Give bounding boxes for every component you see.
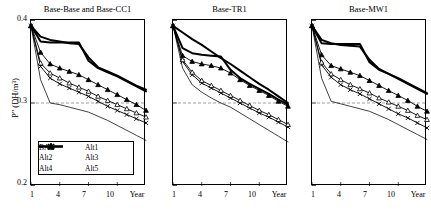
- x-axis-label: Year: [266, 190, 292, 199]
- panel-title: Base-MW1: [311, 4, 426, 14]
- y-tick-label-1: 0.3: [3, 96, 27, 105]
- x-tick-label: 10: [242, 190, 262, 199]
- y-tick-label-0: 0.4: [3, 14, 27, 23]
- plot-area: [172, 19, 287, 185]
- legend-label: Alt1: [85, 144, 98, 152]
- x-tick-label: 7: [216, 190, 236, 199]
- x-axis-label: Year: [124, 190, 150, 199]
- plot-svg: [312, 20, 427, 186]
- x-tick-label: 10: [381, 190, 401, 199]
- panel-title: Base-Base and Base-CC1: [30, 4, 145, 14]
- x-tick-label: 1: [22, 190, 42, 199]
- x-tick-label: 1: [303, 190, 323, 199]
- legend-item-alt5[interactable]: Alt5: [85, 163, 131, 174]
- legend-item-alt3[interactable]: Alt3: [85, 153, 131, 164]
- x-tick-label: 7: [355, 190, 375, 199]
- legend-label: Alt2: [39, 154, 52, 162]
- x-axis-label: Year: [405, 190, 431, 199]
- panel-base-mw1: Base-MW1 1 4 7 10 Year: [311, 0, 426, 216]
- plot-svg: [173, 20, 288, 186]
- x-tick-label: 4: [190, 190, 210, 199]
- x-tick-label: 10: [100, 190, 120, 199]
- legend-symbol-alt5: [39, 142, 63, 151]
- panel-base-base-cc1: Base-Base and Base-CC1 BAU: [30, 0, 145, 216]
- legend-item-alt2[interactable]: Alt2: [39, 153, 85, 164]
- legend-label: Alt5: [85, 165, 98, 173]
- legend-label: Alt3: [85, 154, 98, 162]
- panel-base-tr1: Base-TR1 1 4 7 10 Year: [172, 0, 287, 216]
- x-tick-label: 4: [48, 190, 68, 199]
- y-tick-label-2: 0.2: [3, 178, 27, 187]
- legend-item-alt1[interactable]: Alt1: [85, 142, 131, 153]
- panel-title: Base-TR1: [172, 4, 287, 14]
- legend-item-alt4[interactable]: Alt4: [39, 163, 85, 174]
- x-tick-label: 4: [329, 190, 349, 199]
- legend-label: Alt4: [39, 165, 52, 173]
- plot-area: [311, 19, 426, 185]
- x-tick-label: 7: [74, 190, 94, 199]
- legend: BAU Alt1 Alt2: [38, 141, 134, 175]
- x-tick-label: 1: [164, 190, 184, 199]
